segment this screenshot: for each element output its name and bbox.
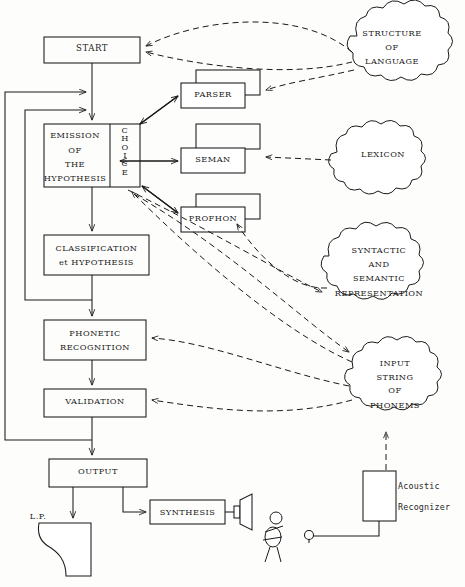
dashed-representation-to-profhon	[237, 224, 327, 288]
dashed-structure-to-start-upper	[146, 22, 352, 52]
cloud-input-string-of-phonems	[345, 336, 442, 410]
box-phonetic-recognition	[44, 320, 146, 360]
label-acoustic-recognizer-line1: Acoustic	[398, 481, 440, 491]
box-profhon	[181, 194, 260, 232]
box-classification-hypothesis	[44, 235, 149, 275]
link-choice-parser	[140, 96, 178, 124]
listener-figure-icon	[263, 512, 283, 562]
dashed-lexicon-to-seman	[266, 157, 331, 160]
feedback-inner-loop	[25, 110, 92, 300]
flowchart-canvas: START EMISSION OF THE HYPOTHESIS CHOICE …	[0, 0, 465, 587]
microphone-icon	[305, 531, 314, 544]
flow-output-to-synthesis	[123, 487, 146, 512]
microphone-cable	[313, 521, 379, 536]
box-synthesis	[150, 500, 225, 524]
box-output	[49, 459, 147, 487]
box-seman	[181, 124, 260, 173]
feedback-outer-loop	[5, 92, 92, 440]
box-parser	[181, 70, 260, 108]
box-validation	[44, 389, 146, 417]
box-start	[44, 37, 140, 63]
loudspeaker-icon	[225, 494, 252, 530]
line-printer-paper	[38, 523, 91, 576]
dashed-input-string-to-phonetic	[152, 338, 349, 386]
dashed-structure-to-start-lower	[146, 52, 352, 70]
cloud-structure-of-language	[347, 0, 452, 81]
label-choice: CHOICE	[114, 126, 136, 176]
dashed-structure-to-parser	[266, 70, 354, 90]
box-acoustic-recognizer	[363, 471, 396, 521]
label-acoustic-recognizer-line2: Recognizer	[398, 502, 450, 512]
dashed-input-string-to-validation	[152, 400, 352, 411]
diagram-vector-layer	[0, 0, 465, 587]
cloud-lexicon	[329, 120, 426, 194]
cloud-syntactic-semantic-representation	[321, 222, 423, 299]
